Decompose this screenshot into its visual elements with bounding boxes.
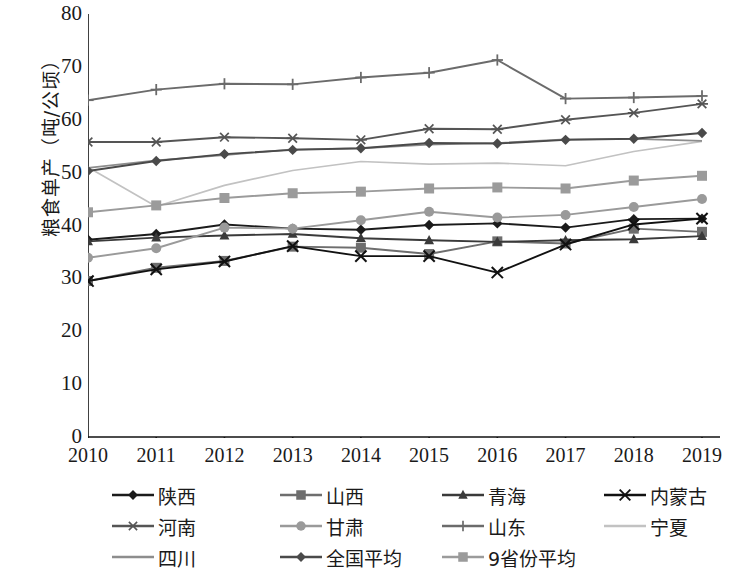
- data-point: [296, 490, 306, 500]
- legend-label: 山西: [326, 482, 364, 509]
- legend-marker-icon: [110, 547, 156, 567]
- x-axis-tick-labels: 2010201120122013201420152016201720182019: [88, 0, 720, 480]
- data-point: [296, 552, 306, 562]
- y-tick-label: 70: [38, 56, 82, 77]
- legend-marker-icon: [278, 547, 324, 567]
- legend-marker-icon: [278, 516, 324, 536]
- x-tick-label: 2018: [599, 444, 669, 467]
- legend-item-9[interactable]: 全国平均: [278, 546, 402, 568]
- legend-label: 内蒙古: [650, 482, 707, 509]
- x-tick-label: 2012: [189, 444, 259, 467]
- y-tick-label: 80: [38, 3, 82, 24]
- legend-label: 9省份平均: [488, 544, 576, 571]
- legend-label: 河南: [158, 513, 196, 540]
- data-point: [458, 521, 469, 532]
- data-point: [296, 521, 306, 531]
- legend-item-3[interactable]: 内蒙古: [602, 484, 707, 506]
- legend-item-5[interactable]: 甘肃: [278, 515, 364, 537]
- legend-item-4[interactable]: 河南: [110, 515, 196, 537]
- legend-label: 甘肃: [326, 513, 364, 540]
- legend-item-10[interactable]: 9省份平均: [440, 546, 576, 568]
- x-tick-label: 2011: [121, 444, 191, 467]
- x-tick-label: 2013: [258, 444, 328, 467]
- y-tick-label: 30: [38, 267, 82, 288]
- data-point: [128, 490, 138, 500]
- legend-item-0[interactable]: 陕西: [110, 484, 196, 506]
- legend-marker-icon: [440, 516, 486, 536]
- legend-item-8[interactable]: 四川: [110, 546, 196, 568]
- legend-item-2[interactable]: 青海: [440, 484, 526, 506]
- y-tick-label: 50: [38, 162, 82, 183]
- legend-item-7[interactable]: 宁夏: [602, 515, 688, 537]
- legend-marker-icon: [602, 516, 648, 536]
- x-tick-label: 2010: [53, 444, 123, 467]
- y-tick-label: 20: [38, 320, 82, 341]
- legend-marker-icon: [602, 485, 648, 505]
- x-tick-label: 2015: [394, 444, 464, 467]
- legend-item-6[interactable]: 山东: [440, 515, 526, 537]
- legend-marker-icon: [110, 485, 156, 505]
- legend-label: 四川: [158, 544, 196, 571]
- legend-item-1[interactable]: 山西: [278, 484, 364, 506]
- y-tick-label: 10: [38, 373, 82, 394]
- x-tick-label: 2016: [462, 444, 532, 467]
- x-tick-label: 2014: [326, 444, 396, 467]
- legend-label: 全国平均: [326, 544, 402, 571]
- y-tick-label: 40: [38, 215, 82, 236]
- y-tick-label: 60: [38, 109, 82, 130]
- legend-marker-icon: [440, 485, 486, 505]
- data-point: [458, 552, 468, 562]
- legend-label: 青海: [488, 482, 526, 509]
- legend-marker-icon: [440, 547, 486, 567]
- chart-legend: 陕西山西青海内蒙古河南甘肃山东宁夏四川全国平均9省份平均: [110, 484, 720, 572]
- legend-label: 山东: [488, 513, 526, 540]
- x-tick-label: 2019: [667, 444, 732, 467]
- x-tick-label: 2017: [531, 444, 601, 467]
- line-chart: 粮食单产（吨/公顷） 01020304050607080 20102011201…: [0, 0, 732, 574]
- data-point: [127, 522, 138, 530]
- legend-marker-icon: [278, 485, 324, 505]
- y-axis-tick-labels: 01020304050607080: [34, 0, 82, 446]
- legend-label: 宁夏: [650, 513, 688, 540]
- legend-label: 陕西: [158, 482, 196, 509]
- legend-marker-icon: [110, 516, 156, 536]
